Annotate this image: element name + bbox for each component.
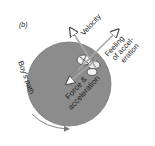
rotating-disk-diagram: (b) Velocity Feeling of accel- eration F…: [0, 0, 155, 146]
panel-label: (b): [19, 21, 28, 29]
feeling-of-acceleration-label: Feeling of accel- eration: [103, 29, 142, 69]
rotating-disk: [27, 42, 111, 126]
velocity-label: Velocity: [79, 12, 103, 37]
